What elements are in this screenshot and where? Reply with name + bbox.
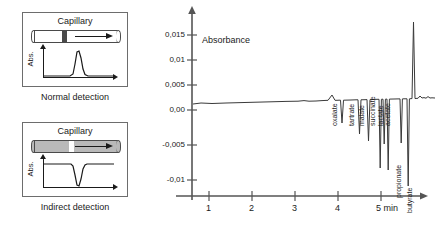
- y-tick-label: 0,005: [137, 80, 185, 89]
- indirect-detection-miniplot: Abs.: [33, 158, 121, 191]
- normal-detection-panel: Capillary Abs. Normal detection: [22, 12, 128, 103]
- peak-label-tartrate: tartrate: [348, 104, 356, 126]
- peak-label-propionate: propionate: [395, 165, 403, 198]
- capillary-end-right-icon: [116, 30, 121, 43]
- analyte-band-light: [69, 141, 74, 152]
- x-tick-label: 4: [335, 203, 340, 213]
- capillary-diagram-indirect: [31, 140, 121, 153]
- y-tick-label: 0,01: [137, 55, 185, 64]
- x-tick-label: 5 min: [376, 203, 398, 213]
- capillary-end-right-icon: [116, 140, 121, 153]
- normal-detection-caption: Normal detection: [22, 92, 128, 103]
- y-tick-label: 0,015: [137, 30, 185, 39]
- abs-axis-label-indirect: Abs.: [27, 161, 35, 176]
- capillary-title-normal: Capillary: [23, 16, 127, 26]
- peak-label-succinate: succinate: [369, 96, 377, 126]
- peak-label-butyrate: butyrate: [406, 188, 414, 213]
- x-tick-label: 2: [249, 203, 254, 213]
- electropherogram: 0,015 0,01 0,005 0,00 -0,005 -0,01 Absor…: [146, 0, 435, 225]
- y-tick-label: -0,005: [137, 140, 185, 149]
- capillary-diagram-normal: [31, 30, 121, 43]
- peak-label-acetate: acetate: [384, 103, 392, 126]
- y-tick-label: 0,00: [137, 105, 185, 114]
- x-tick-label: 1: [206, 203, 211, 213]
- indirect-detection-caption: Indirect detection: [22, 202, 128, 213]
- peak-label-malate: malate: [358, 105, 366, 126]
- indirect-detection-box: Capillary Abs.: [22, 122, 128, 197]
- y-tick-label: -0,01: [137, 175, 185, 184]
- analyte-band-dark: [62, 31, 67, 42]
- flow-arrow-icon: [75, 35, 115, 38]
- normal-peak-trace: [44, 48, 114, 78]
- abs-axis-label-normal: Abs.: [27, 51, 35, 66]
- x-tick-label: 3: [292, 203, 297, 213]
- normal-detection-box: Capillary Abs.: [22, 12, 128, 87]
- capillary-title-indirect: Capillary: [23, 126, 127, 136]
- indirect-peak-trace: [44, 158, 114, 188]
- normal-detection-miniplot: Abs.: [33, 48, 121, 81]
- flow-arrow-icon: [75, 145, 115, 148]
- peak-label-oxalate: oxalate: [331, 103, 339, 126]
- indirect-detection-panel: Capillary Abs. Indirect detection: [22, 122, 128, 213]
- y-axis-title: Absorbance: [202, 35, 250, 45]
- detection-schematics: Capillary Abs. Normal detection: [0, 0, 146, 225]
